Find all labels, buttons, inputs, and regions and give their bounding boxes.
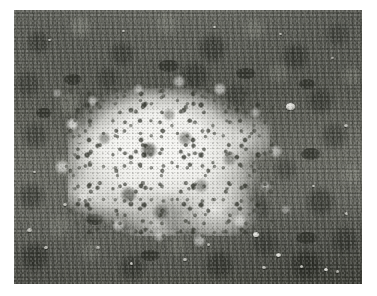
photo-page bbox=[0, 0, 377, 296]
ground-photograph bbox=[14, 10, 362, 284]
film-grain-layer bbox=[14, 10, 362, 284]
